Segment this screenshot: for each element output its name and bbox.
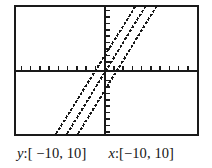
y-range-label: y:[ −10, 10]: [17, 145, 86, 162]
x-range-label: x:[−10, 10]: [108, 145, 174, 162]
plot-frame: [14, 5, 199, 136]
y-range-values: :[ −10, 10]: [24, 145, 87, 161]
graph-figure: y:[ −10, 10] x:[−10, 10]: [0, 0, 212, 168]
x-range-values: :[−10, 10]: [115, 145, 174, 161]
plot-canvas: [16, 7, 197, 134]
range-caption: y:[ −10, 10] x:[−10, 10]: [14, 140, 200, 166]
